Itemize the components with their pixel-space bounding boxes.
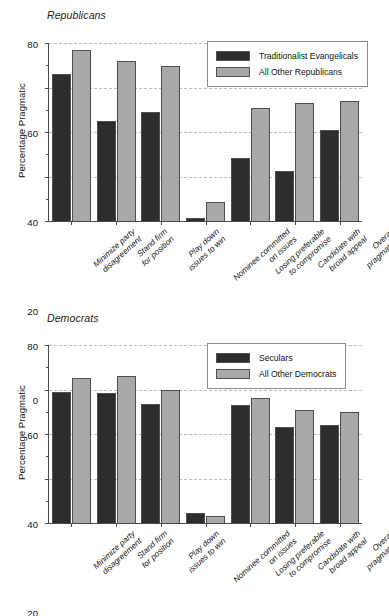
bar xyxy=(206,202,225,221)
legend-republicans: Traditionalist EvangelicalsAll Other Rep… xyxy=(207,41,368,87)
x-axis-label: Stand firmfor position xyxy=(133,227,176,269)
legend-label: All Other Republicans xyxy=(259,67,342,77)
bar xyxy=(141,112,160,221)
bar-group xyxy=(49,43,94,221)
legend-item: All Other Republicans xyxy=(216,64,358,80)
y-axis-tick-label: 80 xyxy=(27,39,38,50)
legend-item: Seculars xyxy=(216,350,336,366)
bar xyxy=(72,50,91,221)
legend-label: All Other Democrats xyxy=(259,369,336,379)
y-axis-tick-label: 60 xyxy=(27,430,38,441)
chart-panel-democrats: Democrats Percentage Pragmatic 020406080… xyxy=(0,300,389,616)
chart-title-republicans: Republicans xyxy=(47,9,106,21)
legend-swatch xyxy=(216,369,250,379)
y-axis-tick-label: 40 xyxy=(27,519,38,530)
bar xyxy=(275,171,294,221)
y-axis-tick-label: 60 xyxy=(27,128,38,139)
y-axis-tick-label: 40 xyxy=(27,217,38,228)
bar xyxy=(340,412,359,523)
bar-group xyxy=(94,345,139,523)
bar xyxy=(320,425,339,523)
bar xyxy=(161,66,180,221)
legend-swatch xyxy=(216,51,250,61)
bar-group xyxy=(138,43,183,221)
legend-democrats: SecularsAll Other Democrats xyxy=(207,343,346,389)
bar xyxy=(251,398,270,523)
bar xyxy=(117,61,136,221)
y-axis-title-republicans: Percentage Pragmatic xyxy=(16,83,27,178)
y-axis-title-democrats: Percentage Pragmatic xyxy=(16,385,27,480)
bar xyxy=(206,516,225,523)
bar-group xyxy=(94,43,139,221)
bar xyxy=(251,108,270,221)
bar xyxy=(275,427,294,523)
x-axis-labels-democrats: Minimize partydisagreementStand firmfor … xyxy=(49,523,362,615)
bar-group xyxy=(138,345,183,523)
legend-swatch xyxy=(216,67,250,77)
chart-panel-republicans: Republicans Percentage Pragmatic 0204060… xyxy=(0,0,389,308)
x-axis-label: Play downissues to win xyxy=(180,227,228,273)
bar xyxy=(141,404,160,523)
legend-swatch xyxy=(216,353,250,363)
legend-label: Traditionalist Evangelicals xyxy=(259,51,358,61)
bar xyxy=(320,130,339,221)
legend-label: Seculars xyxy=(259,353,292,363)
x-axis-label: Stand firmfor position xyxy=(133,529,176,571)
legend-item: All Other Democrats xyxy=(216,366,336,382)
bar xyxy=(117,376,136,523)
bar xyxy=(161,390,180,524)
bar xyxy=(295,103,314,221)
bar xyxy=(52,392,71,523)
bar xyxy=(231,158,250,221)
bar xyxy=(97,121,116,221)
bar xyxy=(97,393,116,523)
bar xyxy=(340,101,359,221)
bar xyxy=(295,410,314,523)
chart-title-democrats: Democrats xyxy=(47,312,99,324)
bar xyxy=(72,378,91,523)
bar-group xyxy=(49,345,94,523)
bar xyxy=(231,405,250,523)
bar xyxy=(186,513,205,523)
y-axis-tick-label: 80 xyxy=(27,341,38,352)
legend-item: Traditionalist Evangelicals xyxy=(216,48,358,64)
y-axis-tick-label: 20 xyxy=(27,608,38,616)
bar xyxy=(52,74,71,221)
x-axis-label: Play downissues to win xyxy=(180,529,228,575)
